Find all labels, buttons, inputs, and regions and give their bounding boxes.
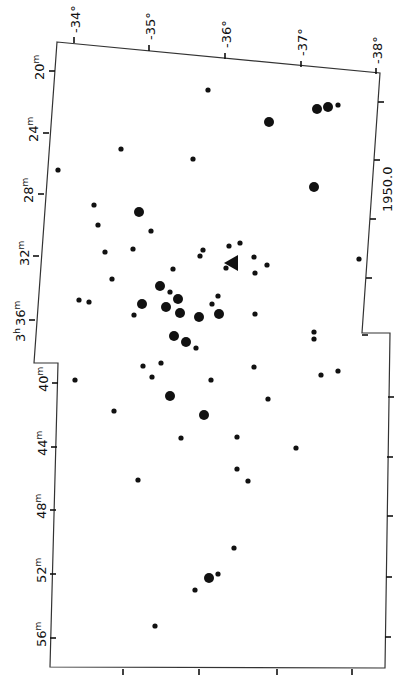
star-small <box>252 311 257 316</box>
star-large <box>264 117 274 127</box>
ra-labels: 20m 24m 28m 32m 3h36m 40m 44m 48m 52m 56… <box>12 55 51 647</box>
star-small <box>251 364 256 369</box>
star-small <box>135 477 140 482</box>
star-small <box>200 247 205 252</box>
ra-label: 44m <box>34 431 50 456</box>
star-small <box>158 360 163 365</box>
star-large <box>181 337 191 347</box>
dec-label: -35° <box>143 12 158 40</box>
star-small <box>72 377 77 382</box>
star-large <box>137 299 147 309</box>
star-small <box>178 435 183 440</box>
star-small <box>209 301 214 306</box>
star-small <box>190 156 195 161</box>
dec-label: -38° <box>370 36 385 64</box>
star-large <box>199 410 209 420</box>
ra-label: 28m <box>20 178 36 203</box>
star-small <box>245 478 250 483</box>
ra-label: 3h36m <box>12 301 28 342</box>
star-small <box>335 368 340 373</box>
ra-label: 52m <box>33 558 49 583</box>
star-small <box>205 87 210 92</box>
star-large <box>175 308 185 318</box>
star-small <box>95 222 100 227</box>
star-large <box>161 302 171 312</box>
star-small <box>111 408 116 413</box>
star-chart: -34° -35° -36° -37° -38° 20m 24m 28m 32m… <box>0 0 410 686</box>
dec-label: -37° <box>295 28 310 56</box>
star-small <box>76 297 81 302</box>
star-large <box>312 104 322 114</box>
star-small <box>118 146 123 151</box>
star-small <box>91 202 96 207</box>
ra-label: 56m <box>33 622 49 647</box>
star-small <box>311 336 316 341</box>
ra-label: 48m <box>33 494 49 519</box>
star-small <box>265 396 270 401</box>
star-small <box>130 246 135 251</box>
star-large <box>194 312 204 322</box>
star-small <box>311 329 316 334</box>
star-small <box>167 289 172 294</box>
star-small <box>215 293 220 298</box>
dec-ticks-bottom <box>123 669 352 675</box>
epoch-label: 1950.0 <box>380 167 395 213</box>
star-small <box>86 299 91 304</box>
star-small <box>226 243 231 248</box>
star-large <box>323 102 333 112</box>
star-large <box>204 573 214 583</box>
ra-label: 20m <box>31 55 47 80</box>
star-large <box>134 207 144 217</box>
star-small <box>264 262 269 267</box>
star-small <box>102 249 107 254</box>
star-large <box>169 331 179 341</box>
star-small <box>109 276 114 281</box>
ra-ticks-left <box>29 71 58 638</box>
star-small <box>197 253 202 258</box>
ra-label: 40m <box>35 367 51 392</box>
star-small <box>131 312 136 317</box>
dec-label: -34° <box>68 5 83 33</box>
star-small <box>356 256 361 261</box>
star-large <box>309 182 319 192</box>
star-large <box>165 391 175 401</box>
dec-label: -36° <box>219 20 234 48</box>
star-small <box>252 270 257 275</box>
star-small <box>293 445 298 450</box>
star-small <box>152 623 157 628</box>
star-small <box>193 345 198 350</box>
star-small <box>140 363 145 368</box>
star-small <box>234 434 239 439</box>
star-small <box>148 228 153 233</box>
star-small <box>335 102 340 107</box>
star-small <box>237 240 242 245</box>
star-small <box>55 167 60 172</box>
star-small <box>223 265 228 270</box>
star-small <box>149 374 154 379</box>
star-large <box>155 281 165 291</box>
star-small <box>251 254 256 259</box>
star-small <box>231 545 236 550</box>
ra-label: 24m <box>25 117 41 142</box>
star-small <box>170 266 175 271</box>
star-field <box>55 87 361 628</box>
dec-labels: -34° -35° -36° -37° -38° <box>68 5 385 64</box>
star-large <box>214 309 224 319</box>
star-small <box>234 466 239 471</box>
star-small <box>318 372 323 377</box>
star-small <box>215 571 220 576</box>
star-small <box>192 587 197 592</box>
star-small <box>208 377 213 382</box>
ra-label: 32m <box>16 241 32 266</box>
star-large <box>173 294 183 304</box>
